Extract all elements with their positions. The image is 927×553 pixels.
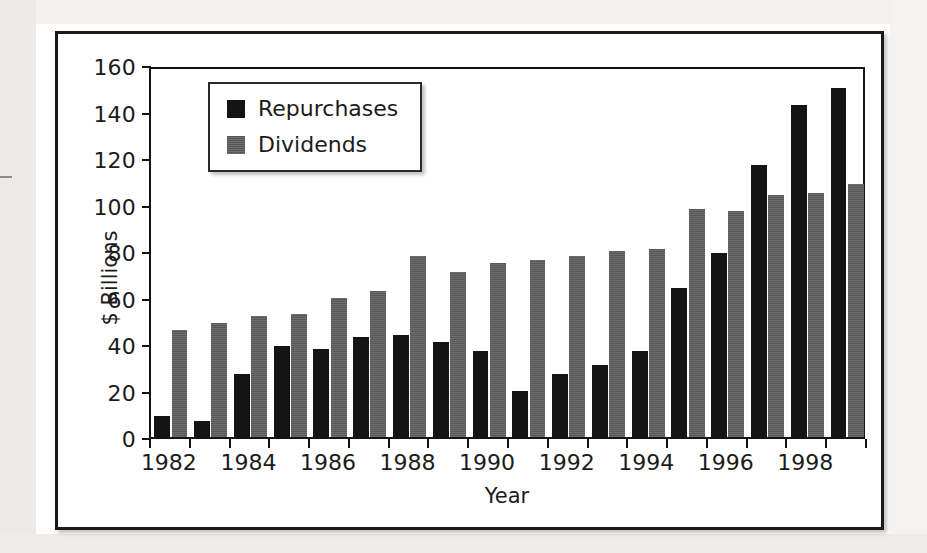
x-axis-tick-label: 1992 xyxy=(539,450,595,475)
bar-group xyxy=(787,69,827,437)
x-axis-tick-mark xyxy=(467,439,469,448)
x-axis-tick-label: 1994 xyxy=(618,450,674,475)
x-axis-tick-label: 1982 xyxy=(141,450,197,475)
bar-group xyxy=(827,69,867,437)
bar-dividends xyxy=(450,272,466,437)
x-axis-tick-label: 1990 xyxy=(459,450,515,475)
bar-dividends xyxy=(569,256,585,437)
legend-label-repurchases: Repurchases xyxy=(258,96,398,121)
bar-repurchases xyxy=(552,374,568,437)
bar-group xyxy=(668,69,708,437)
bar-repurchases xyxy=(353,337,369,437)
bar-group xyxy=(708,69,748,437)
bar-group xyxy=(628,69,668,437)
x-axis-tick-label: 1986 xyxy=(300,450,356,475)
x-axis-tick-labels: 198219841986198819901992199419961998 xyxy=(149,450,865,484)
bar-repurchases xyxy=(512,391,528,438)
bar-dividends xyxy=(609,251,625,437)
bar-repurchases xyxy=(751,165,767,437)
bar-group xyxy=(429,69,469,437)
bar-dividends xyxy=(490,263,506,437)
y-axis-tick-label: 160 xyxy=(93,55,136,80)
x-axis-tick-mark xyxy=(507,439,509,448)
bar-dividends xyxy=(331,298,347,438)
x-axis-tick-mark xyxy=(268,439,270,448)
bar-repurchases xyxy=(473,351,489,437)
page-margin-bottom xyxy=(0,534,927,553)
bar-dividends xyxy=(291,314,307,437)
x-axis-tick-mark xyxy=(348,439,350,448)
bar-dividends xyxy=(211,323,227,437)
x-axis-tick-mark xyxy=(785,439,787,448)
bar-dividends xyxy=(251,316,267,437)
page-margin-right xyxy=(890,0,927,553)
page-margin-top xyxy=(0,0,927,24)
x-axis-tick-mark xyxy=(587,439,589,448)
gray-square-swatch-icon xyxy=(227,136,245,154)
bar-group xyxy=(509,69,549,437)
bar-group xyxy=(151,69,191,437)
bar-repurchases xyxy=(632,351,648,437)
bar-group xyxy=(589,69,629,437)
bar-repurchases xyxy=(194,421,210,437)
chart-legend: Repurchases Dividends xyxy=(208,82,422,172)
bar-repurchases xyxy=(313,349,329,437)
bar-repurchases xyxy=(831,88,847,437)
bar-repurchases xyxy=(433,342,449,437)
y-axis-tick-label: 20 xyxy=(108,380,136,405)
x-axis-tick-mark xyxy=(427,439,429,448)
x-axis-tick-mark xyxy=(666,439,668,448)
bar-group xyxy=(549,69,589,437)
x-axis-ticks xyxy=(149,439,865,449)
bar-repurchases xyxy=(234,374,250,437)
x-axis-tick-mark xyxy=(388,439,390,448)
bar-dividends xyxy=(848,184,864,437)
y-axis-tick-label: 120 xyxy=(93,148,136,173)
bar-group xyxy=(748,69,788,437)
bar-dividends xyxy=(689,209,705,437)
bar-dividends xyxy=(370,291,386,437)
bar-repurchases xyxy=(393,335,409,437)
bar-chart: 020406080100120140160 $ Billions 1982198… xyxy=(58,34,881,527)
bar-dividends xyxy=(530,260,546,437)
page-rule-mark xyxy=(0,176,12,178)
x-axis-tick-mark xyxy=(229,439,231,448)
x-axis-tick-mark xyxy=(547,439,549,448)
bar-repurchases xyxy=(154,416,170,437)
x-axis-tick-mark xyxy=(149,439,151,448)
x-axis-tick-label: 1988 xyxy=(380,450,436,475)
bar-dividends xyxy=(808,193,824,437)
y-axis-tick-label: 140 xyxy=(93,101,136,126)
bar-repurchases xyxy=(671,288,687,437)
y-axis-tick-label: 0 xyxy=(122,427,136,452)
x-axis-tick-mark xyxy=(706,439,708,448)
bar-dividends xyxy=(728,211,744,437)
x-axis-tick-label: 1998 xyxy=(777,450,833,475)
bar-dividends xyxy=(410,256,426,437)
bar-repurchases xyxy=(791,105,807,437)
bar-dividends xyxy=(172,330,188,437)
figure-frame: 020406080100120140160 $ Billions 1982198… xyxy=(55,31,884,530)
bar-repurchases xyxy=(274,346,290,437)
legend-item-dividends: Dividends xyxy=(227,132,367,157)
x-axis-tick-mark xyxy=(189,439,191,448)
x-axis-tick-mark xyxy=(825,439,827,448)
bar-dividends xyxy=(649,249,665,437)
bar-repurchases xyxy=(592,365,608,437)
bar-group xyxy=(469,69,509,437)
legend-item-repurchases: Repurchases xyxy=(227,96,398,121)
bar-repurchases xyxy=(711,253,727,437)
x-axis-tick-label: 1996 xyxy=(698,450,754,475)
y-axis-title: $ Billions xyxy=(98,178,122,378)
x-axis-tick-mark xyxy=(308,439,310,448)
x-axis-tick-mark xyxy=(865,439,867,448)
black-square-swatch-icon xyxy=(227,100,245,118)
x-axis-tick-label: 1984 xyxy=(220,450,276,475)
x-axis-title: Year xyxy=(149,484,865,508)
x-axis-tick-mark xyxy=(626,439,628,448)
page-margin-left xyxy=(0,0,36,553)
x-axis-tick-mark xyxy=(746,439,748,448)
legend-label-dividends: Dividends xyxy=(258,132,367,157)
bar-dividends xyxy=(768,195,784,437)
